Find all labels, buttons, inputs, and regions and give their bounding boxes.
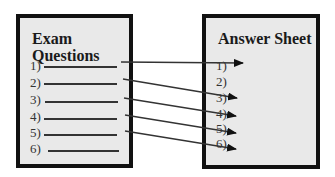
arrow-q2-to-a3 [123,79,237,98]
arrow-q5-to-a6 [125,131,236,149]
mapping-arrows [0,0,335,177]
arrow-q1-to-a1 [121,62,243,63]
arrow-q3-to-a4 [124,98,236,116]
arrow-q4-to-a5 [125,115,236,133]
